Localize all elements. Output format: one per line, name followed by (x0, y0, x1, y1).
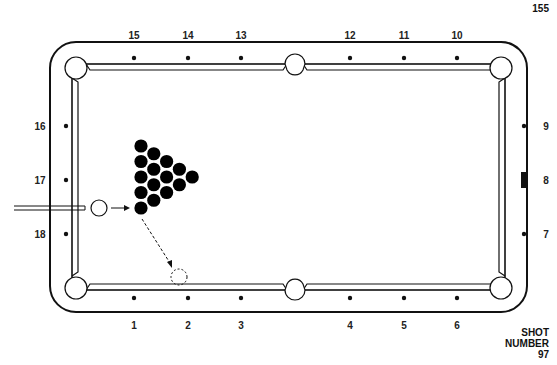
diamond-markers (64, 56, 527, 300)
diamond-label-10: 10 (451, 30, 462, 41)
object-ball (173, 163, 186, 176)
shot-label-line2: NUMBER (505, 338, 549, 349)
diamond-dot-18 (64, 232, 68, 236)
object-ball (160, 186, 173, 199)
diamond-label-6: 6 (454, 320, 460, 331)
pocket-bottom-left (65, 277, 87, 299)
diamond-dot-5 (402, 296, 406, 300)
pocket-top-right (490, 57, 512, 79)
ghost-ball-target (171, 269, 187, 285)
pocket-top-side (285, 54, 305, 75)
diamond-label-8: 8 (543, 175, 549, 186)
pocket-bottom-right (490, 277, 512, 299)
pocket-bottom-side (285, 279, 305, 300)
diamond-label-2: 2 (185, 320, 191, 331)
object-ball (134, 139, 147, 152)
diamond-dot-9 (522, 124, 526, 128)
cue-ball-arrow (111, 205, 130, 211)
diamond-dot-2 (186, 296, 190, 300)
object-ball (160, 155, 173, 168)
diamond-dot-17 (64, 178, 68, 182)
diamond-bar-8 (521, 172, 527, 188)
diamond-dot-7 (522, 232, 526, 236)
object-ball (134, 155, 147, 168)
shot-label-line1: SHOT (505, 327, 549, 338)
page-number: 155 (532, 3, 549, 14)
shot-number-block: SHOT NUMBER 97 (505, 327, 549, 360)
object-ball (147, 194, 160, 207)
table-outer-edge (50, 42, 527, 312)
object-ball (147, 163, 160, 176)
pool-table-diagram (0, 0, 557, 365)
diamond-label-18: 18 (34, 229, 45, 240)
diamond-label-5: 5 (401, 320, 407, 331)
object-ball (186, 170, 199, 183)
diamond-label-7: 7 (543, 229, 549, 240)
diamond-label-17: 17 (34, 175, 45, 186)
object-ball (147, 147, 160, 160)
diamond-label-13: 13 (235, 30, 246, 41)
diamond-label-9: 9 (543, 121, 549, 132)
diamond-dot-14 (186, 56, 190, 60)
diamond-label-15: 15 (128, 30, 139, 41)
diamond-dot-11 (402, 56, 406, 60)
diamond-label-12: 12 (344, 30, 355, 41)
object-ball (134, 201, 147, 214)
cue-ball (91, 200, 107, 216)
object-ball-path (142, 219, 172, 268)
diamond-label-1: 1 (131, 320, 137, 331)
diamond-dot-3 (239, 296, 243, 300)
object-ball (147, 178, 160, 191)
diamond-dot-4 (348, 296, 352, 300)
object-ball (134, 170, 147, 183)
diamond-dot-10 (455, 56, 459, 60)
object-ball (160, 170, 173, 183)
diamond-dot-16 (64, 124, 68, 128)
diamond-dot-13 (239, 56, 243, 60)
diamond-label-14: 14 (182, 30, 193, 41)
diamond-label-11: 11 (399, 30, 410, 41)
pockets (65, 54, 512, 300)
racked-balls (134, 139, 198, 214)
diamond-dot-12 (348, 56, 352, 60)
diamond-dot-1 (132, 296, 136, 300)
diamond-dot-6 (455, 296, 459, 300)
diamond-label-3: 3 (238, 320, 244, 331)
diamond-dot-15 (132, 56, 136, 60)
pocket-top-left (65, 57, 87, 79)
diamond-label-4: 4 (347, 320, 353, 331)
shot-number: 97 (505, 349, 549, 360)
object-ball (173, 178, 186, 191)
object-ball (134, 186, 147, 199)
diamond-label-16: 16 (34, 121, 45, 132)
